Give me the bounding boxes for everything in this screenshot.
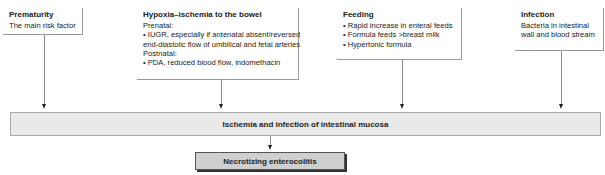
prematurity-line: The main risk factor [9,21,76,30]
hypoxia-connector [221,80,222,105]
feeding-line: • Hypertonic formula [343,40,455,49]
prematurity-box: Prematurity The main risk factor [3,8,83,35]
hypoxia-line: Prenatal: [143,21,292,30]
arrow-down-icon [219,104,223,109]
outcome-label: Necrotizing enterocolitis [223,157,316,166]
central-process-label: Ischemia and infection of intestinal muc… [223,120,389,129]
infection-title: Infection [521,10,597,19]
hypoxia-line: • IUGR, especially if antenatal absent/r… [143,30,292,39]
central-process-bar: Ischemia and infection of intestinal muc… [10,112,601,136]
arrow-down-icon [268,145,272,150]
hypoxia-line: end-diastolic flow of umbilical and feta… [143,40,292,49]
hypoxia-title: Hypoxia–ischemia to the bowel [143,10,292,19]
feeding-line: • Formula feeds >breast milk [343,30,455,39]
infection-line: wall and blood stream [521,30,597,39]
infection-line: Bacteria in intestinal [521,21,597,30]
feeding-title: Feeding [343,10,455,19]
hypoxia-box: Hypoxia–ischemia to the bowel Prenatal: … [137,8,299,80]
arrow-down-icon [400,104,404,109]
outcome-box: Necrotizing enterocolitis [195,152,345,170]
arrow-down-icon [42,104,46,109]
feeding-box: Feeding • Rapid increase in enteral feed… [337,8,462,60]
hypoxia-line: Postnatal: [143,49,292,58]
feeding-connector [402,60,403,105]
prematurity-title: Prematurity [9,10,76,19]
arrow-down-icon [559,104,563,109]
feeding-line: • Rapid increase in enteral feeds [343,21,455,30]
hypoxia-line: • PDA, reduced blood flow, indomethacin [143,58,292,67]
infection-connector [561,51,562,105]
infection-box: Infection Bacteria in intestinal wall an… [515,8,604,51]
prematurity-connector [44,35,45,105]
